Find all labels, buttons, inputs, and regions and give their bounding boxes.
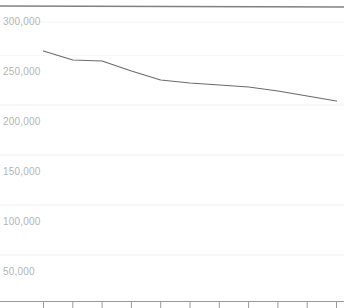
- line-chart-panel: 300,000 250,000 200,000 150,000 100,000 …: [0, 0, 344, 308]
- chart-plot-area: [0, 0, 344, 308]
- y-tick-label-50000: 50,000: [3, 266, 35, 277]
- x-tick-mark-group: [44, 302, 337, 308]
- y-tick-label-300000: 300,000: [3, 16, 41, 27]
- y-tick-label-250000: 250,000: [3, 66, 41, 77]
- series-1-line: [44, 51, 337, 101]
- gridline-group: [0, 22, 344, 255]
- top-clipped-series-line: [0, 6, 344, 7]
- y-tick-label-150000: 150,000: [3, 166, 41, 177]
- y-tick-label-100000: 100,000: [3, 216, 41, 227]
- y-tick-label-200000: 200,000: [3, 116, 41, 127]
